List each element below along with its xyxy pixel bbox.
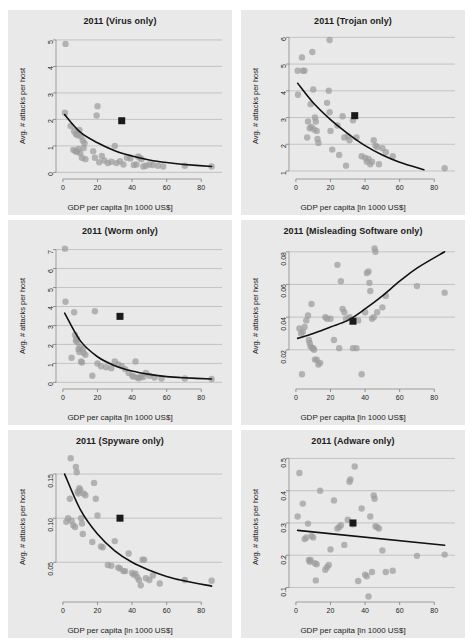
- data-point: [364, 573, 370, 579]
- data-point: [141, 556, 147, 562]
- x-tick-label: 40: [353, 394, 377, 401]
- data-point: [369, 158, 375, 164]
- data-point: [309, 49, 315, 55]
- trend-line: [298, 252, 445, 339]
- x-tick-label: 40: [120, 394, 144, 401]
- y-tick-label: 0.06: [280, 284, 287, 298]
- data-point: [120, 161, 126, 167]
- x-tick-label: 0: [51, 184, 75, 191]
- data-point: [79, 359, 85, 365]
- highlight-marker: [116, 515, 123, 522]
- y-tick-label: 3: [280, 118, 287, 122]
- data-point: [112, 538, 118, 544]
- data-point: [299, 54, 305, 60]
- y-tick-label: 0: [47, 382, 54, 386]
- data-point: [346, 137, 352, 143]
- data-point: [414, 283, 420, 289]
- data-point: [313, 128, 319, 134]
- data-point: [299, 371, 305, 377]
- x-tick-label: 80: [422, 184, 446, 191]
- data-point: [379, 547, 385, 553]
- y-tick-label: 0.4: [280, 491, 287, 501]
- x-tick-label: 60: [388, 607, 412, 614]
- data-point: [301, 68, 307, 74]
- x-tick-label: 0: [284, 607, 308, 614]
- x-tick-label: 60: [155, 184, 179, 191]
- data-point: [383, 149, 389, 155]
- data-point: [317, 360, 323, 366]
- data-point: [305, 118, 311, 124]
- trend-line: [298, 530, 445, 545]
- x-tick-label: 40: [353, 184, 377, 191]
- data-point: [91, 480, 97, 486]
- data-point: [347, 476, 353, 482]
- data-point: [358, 371, 364, 377]
- data-point: [336, 152, 342, 158]
- data-point: [338, 522, 344, 528]
- data-point: [358, 505, 364, 511]
- data-point: [326, 37, 332, 43]
- data-point: [327, 546, 333, 552]
- data-point: [125, 550, 131, 556]
- data-point: [93, 496, 99, 502]
- y-tick-label: 4: [47, 306, 54, 310]
- data-point: [310, 86, 316, 92]
- chart-panel-4: 2011 (Misleading Software only)Avg. # at…: [241, 220, 465, 425]
- data-point: [89, 373, 95, 379]
- data-point: [366, 280, 372, 286]
- data-point: [308, 301, 314, 307]
- data-point: [313, 561, 319, 567]
- data-point: [157, 580, 163, 586]
- y-tick-label: 6: [280, 37, 287, 41]
- y-tick-label: 1: [47, 146, 54, 150]
- trend-line: [65, 474, 212, 586]
- data-point: [92, 308, 98, 314]
- data-point: [371, 496, 377, 502]
- x-tick-label: 80: [422, 394, 446, 401]
- x-tick-label: 80: [189, 607, 213, 614]
- data-point: [93, 112, 99, 118]
- y-tick-label: 0.5: [280, 458, 287, 468]
- data-point: [89, 539, 95, 545]
- data-point: [376, 161, 382, 167]
- data-point: [296, 470, 302, 476]
- x-tick-label: 20: [86, 394, 110, 401]
- x-tick-label: 20: [319, 184, 343, 191]
- highlight-marker: [116, 313, 123, 320]
- y-tick-label: 4: [280, 91, 287, 95]
- x-tick-label: 20: [86, 607, 110, 614]
- chart-panel-1: 2011 (Virus only)Avg. # attacks per host…: [8, 10, 232, 215]
- y-tick-label: 1: [280, 171, 287, 175]
- data-point: [374, 309, 380, 315]
- data-point: [383, 569, 389, 575]
- data-point: [343, 162, 349, 168]
- data-point: [334, 262, 340, 268]
- data-point: [82, 352, 88, 358]
- data-point: [67, 496, 73, 502]
- x-tick-label: 0: [284, 394, 308, 401]
- data-point: [294, 513, 300, 519]
- data-point: [94, 103, 100, 109]
- data-point: [82, 156, 88, 162]
- data-point: [108, 563, 114, 569]
- highlight-marker: [349, 318, 356, 325]
- y-tick-label: 1: [47, 363, 54, 367]
- data-point: [331, 497, 337, 503]
- data-point: [365, 593, 371, 599]
- data-point: [324, 100, 330, 106]
- data-point: [160, 163, 166, 169]
- data-point: [327, 316, 333, 322]
- y-tick-label: 2: [47, 344, 54, 348]
- data-point: [341, 309, 347, 315]
- y-tick-label: 0.2: [280, 555, 287, 565]
- data-point: [379, 304, 385, 310]
- data-point: [62, 299, 68, 305]
- y-tick-label: 0.05: [47, 562, 54, 576]
- y-tick-label: 4: [47, 66, 54, 70]
- y-tick-label: 5: [280, 64, 287, 68]
- data-point: [304, 134, 310, 140]
- x-tick-label: 60: [155, 394, 179, 401]
- data-point: [327, 128, 333, 134]
- y-tick-label: 3: [47, 93, 54, 97]
- y-tick-label: 0.02: [280, 350, 287, 364]
